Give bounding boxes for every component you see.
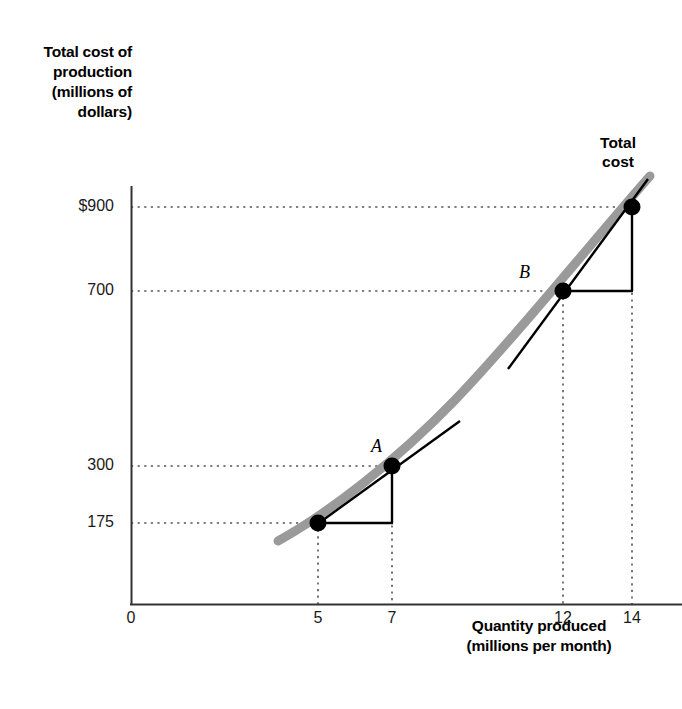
chart-figure: Total cost of production (millions of do… bbox=[0, 0, 682, 709]
total-cost-curve bbox=[278, 176, 650, 541]
tangent-line-a bbox=[312, 421, 460, 528]
data-point-14-900 bbox=[624, 199, 641, 216]
data-point-b bbox=[555, 283, 572, 300]
plot-canvas bbox=[0, 0, 682, 709]
data-point-5-175 bbox=[310, 515, 327, 532]
data-point-a bbox=[384, 458, 401, 475]
